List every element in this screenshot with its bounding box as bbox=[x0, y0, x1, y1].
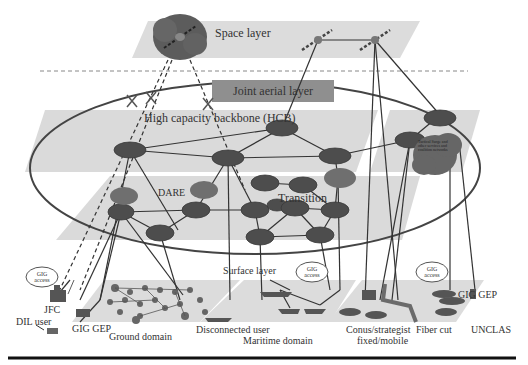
coalition-cloud-label: Tactical Surge and other services and co… bbox=[418, 140, 454, 152]
joint-aerial-layer-label: Joint aerial layer bbox=[233, 85, 313, 97]
fiber-cut-label: Fiber cut bbox=[416, 325, 452, 335]
disconnected-user-label: Disconnected user bbox=[196, 325, 270, 335]
unclas-label: UNCLAS bbox=[471, 325, 511, 335]
fixed-mobile-label: fixed/mobile bbox=[357, 336, 408, 346]
jfc-label: JFC bbox=[44, 305, 60, 315]
gig-network-diagram: Space layer Joint aerial layer High capa… bbox=[0, 0, 528, 365]
gig-access-label-left: GIG access bbox=[31, 271, 53, 283]
maritime-domain-label: Maritime domain bbox=[243, 336, 313, 346]
space-cloud bbox=[153, 14, 207, 60]
gig-access-label-right: GIG access bbox=[421, 266, 443, 278]
surface-layer-label: Surface layer bbox=[223, 266, 276, 276]
dil-user-label: DIL user bbox=[16, 317, 51, 327]
transition-label: Transition bbox=[278, 192, 327, 204]
space-layer-label: Space layer bbox=[215, 27, 271, 39]
gig-gep-left-label: GIG GEP bbox=[72, 324, 111, 334]
dare-label: DARE bbox=[158, 188, 185, 198]
hcb-label: High capacity backbone (HCB) bbox=[144, 112, 296, 124]
gig-gep-left-icon bbox=[76, 309, 90, 317]
gig-gep-right-label: GIG GEP bbox=[458, 290, 497, 300]
conus-strategist-label: Conus/strategist bbox=[346, 325, 410, 335]
conus-truck-icon bbox=[362, 290, 376, 300]
gig-access-label-mid: GIG access bbox=[301, 266, 323, 278]
ground-domain-label: Ground domain bbox=[109, 332, 172, 342]
dil-user-vehicle-icon bbox=[47, 328, 58, 334]
